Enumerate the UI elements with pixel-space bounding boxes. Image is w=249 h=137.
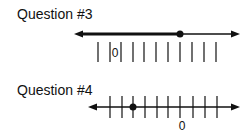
- closed-dot-point: [130, 104, 137, 111]
- zero-label: 0: [112, 46, 119, 60]
- closed-dot-point: [177, 31, 184, 38]
- number-lines: 00: [0, 0, 249, 137]
- left-arrow-icon: [88, 104, 97, 111]
- left-arrow-icon: [74, 31, 83, 38]
- right-arrow-icon: [231, 31, 240, 38]
- right-arrow-icon: [231, 104, 240, 111]
- zero-label: 0: [179, 119, 186, 133]
